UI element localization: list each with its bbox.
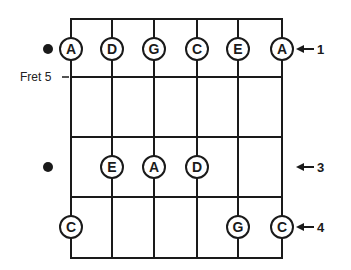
note-label: E (233, 41, 242, 57)
finger-indicator-1: 1 (296, 42, 324, 57)
note-label: G (149, 41, 160, 57)
note-label: A (149, 159, 159, 175)
finger-indicator-3: 3 (296, 160, 324, 175)
frets (71, 77, 282, 197)
note-label: A (277, 41, 287, 57)
note-label: D (192, 159, 202, 175)
note-label: C (192, 41, 202, 57)
position-dot-row-3 (43, 162, 53, 172)
finger-number: 1 (317, 42, 324, 57)
fret-label: Fret 5 (20, 70, 52, 84)
note-label: D (107, 41, 117, 57)
note-label: G (233, 219, 244, 235)
note-label: A (66, 41, 76, 57)
note-label: E (107, 159, 116, 175)
arrow-head-icon (296, 163, 304, 171)
strings (112, 19, 238, 258)
row-3-notes: E A D (101, 156, 208, 178)
finger-indicator-4: 4 (296, 220, 325, 235)
position-dot-row-1 (43, 44, 53, 54)
note-label: C (277, 219, 287, 235)
finger-number: 4 (317, 220, 325, 235)
fretboard-diagram: Fret 5 A D G C E A E A D C G C (0, 0, 351, 270)
row-1-notes: A D G C E A (60, 38, 293, 60)
finger-number: 3 (317, 160, 324, 175)
arrow-head-icon (296, 45, 304, 53)
row-4-notes: C G C (60, 216, 293, 238)
note-label: C (66, 219, 76, 235)
arrow-head-icon (296, 223, 304, 231)
